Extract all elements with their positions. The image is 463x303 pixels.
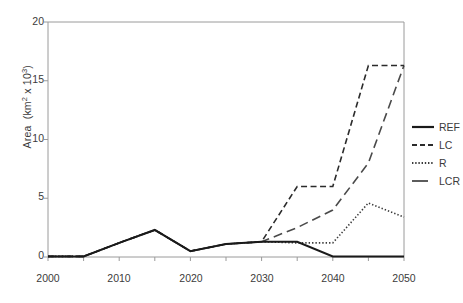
series-line-lc [48, 65, 404, 256]
x-tick-label-2020: 2020 [168, 272, 214, 284]
y-axis-title: Area (km2 x 103) [19, 37, 33, 177]
data-series-group [48, 65, 404, 256]
legend-label-lcr: LCR [439, 176, 460, 187]
series-line-ref [48, 230, 404, 256]
y-tick-label-5: 5 [18, 190, 44, 202]
legend-swatch-lcr [412, 176, 434, 186]
legend-swatch-ref [412, 122, 434, 132]
y-tick-label-10: 10 [18, 132, 44, 144]
y-tick-label-15: 15 [18, 73, 44, 85]
y-tick-marks [44, 22, 48, 257]
x-tick-marks [48, 257, 404, 261]
legend-item-lc[interactable]: LC [412, 136, 460, 154]
series-line-lcr [48, 65, 404, 256]
legend-swatch-lc [412, 140, 434, 150]
x-tick-label-2040: 2040 [310, 272, 356, 284]
x-tick-label-2000: 2000 [25, 272, 71, 284]
x-tick-label-2050: 2050 [381, 272, 427, 284]
line-chart-figure: Area (km2 x 103) 20 15 10 5 0 2000 2010 … [0, 0, 463, 303]
legend-label-ref: REF [439, 122, 460, 133]
x-tick-label-2010: 2010 [96, 272, 142, 284]
series-line-r [48, 203, 404, 256]
y-tick-label-0: 0 [18, 249, 44, 261]
legend-item-r[interactable]: R [412, 154, 460, 172]
legend-swatch-r [412, 158, 434, 168]
plot-area [0, 0, 463, 303]
legend: REF LC R LCR [412, 118, 460, 190]
legend-label-lc: LC [439, 140, 452, 151]
legend-item-ref[interactable]: REF [412, 118, 460, 136]
legend-item-lcr[interactable]: LCR [412, 172, 460, 190]
x-tick-label-2030: 2030 [239, 272, 285, 284]
legend-label-r: R [439, 158, 447, 169]
y-tick-label-20: 20 [18, 15, 44, 27]
